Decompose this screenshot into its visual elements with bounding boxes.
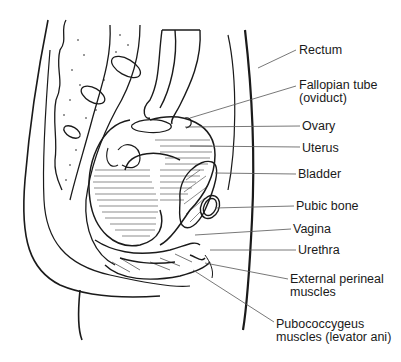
label-fallopian-tube: Fallopian tube (oviduct) [299,79,378,105]
perineal-hatching [112,254,192,272]
rectum-shape [144,30,200,124]
label-uterus: Uterus [302,142,339,155]
perineal-muscles-shape [95,240,213,279]
uterus-hatching [93,140,212,236]
label-bladder: Bladder [298,168,341,181]
label-external-perineal-line2: muscles [290,286,384,299]
label-pubococcygeus-muscles: Pubococcygeus muscles (levator ani) [276,318,391,344]
uterus-shape [89,117,215,246]
label-vagina: Vagina [293,223,331,236]
leader-lines [185,50,300,322]
sacrum [55,20,144,265]
label-pubococcygeus-line2: muscles (levator ani) [276,331,391,344]
ovary-shape [118,118,191,168]
anatomy-diagram: Rectum Fallopian tube (oviduct) Ovary Ut… [0,0,401,362]
label-pubic-bone: Pubic bone [296,200,359,213]
label-fallopian-tube-line2: (oviduct) [299,92,378,105]
label-urethra: Urethra [298,244,340,257]
label-external-perineal-muscles: External perineal muscles [290,273,384,299]
label-rectum: Rectum [299,44,342,57]
label-ovary: Ovary [302,120,335,133]
